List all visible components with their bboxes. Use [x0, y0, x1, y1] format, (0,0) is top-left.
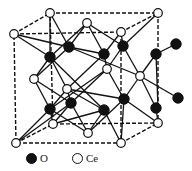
- open-circle-icon: [72, 153, 83, 164]
- legend: O Ce: [26, 150, 122, 166]
- o-atom: [173, 93, 183, 103]
- filled-circle-icon: [26, 153, 37, 164]
- legend-label-oxygen: O: [40, 152, 48, 164]
- ce-atom: [83, 19, 92, 28]
- ce-atom: [103, 65, 112, 74]
- ce-atom: [10, 30, 19, 39]
- o-atom: [118, 41, 128, 51]
- crystal-structure-diagram: [0, 0, 192, 150]
- o-atom: [119, 94, 129, 104]
- ce-atom: [46, 9, 55, 18]
- o-atom: [151, 103, 161, 113]
- ce-atom: [117, 28, 126, 37]
- ce-atom: [84, 129, 93, 138]
- legend-item-cerium: Ce: [72, 152, 98, 164]
- o-atom: [151, 49, 161, 59]
- ce-atom: [117, 139, 126, 148]
- ce-atom: [154, 9, 163, 18]
- ce-atom: [30, 75, 39, 84]
- ce-atom: [12, 139, 21, 148]
- o-atom: [99, 105, 109, 115]
- legend-label-cerium: Ce: [86, 152, 98, 164]
- o-atom: [66, 98, 76, 108]
- ce-atom: [136, 72, 145, 81]
- o-atom: [45, 104, 55, 114]
- o-atom: [99, 49, 109, 59]
- ce-atom: [63, 85, 72, 94]
- legend-item-oxygen: O: [26, 152, 48, 164]
- o-atom: [45, 52, 55, 62]
- o-atom: [171, 39, 181, 49]
- o-atom: [64, 42, 74, 52]
- ce-atom: [154, 119, 163, 128]
- ce-atom: [49, 120, 58, 129]
